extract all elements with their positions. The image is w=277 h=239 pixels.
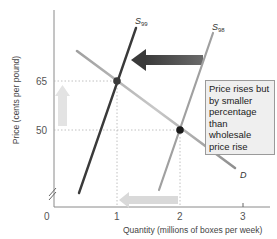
supply-shift-arrow-icon [131,49,203,71]
annotation-box: Price rises but by smaller percentage th… [205,80,275,155]
quantity-decrease-arrow-icon [119,192,178,208]
axis-break-icon [49,188,56,200]
equilibrium-point-new [113,77,121,85]
guide-lines [54,81,180,207]
s99-label: S99 [135,16,148,27]
x-tick-label-2: 2 [177,211,183,222]
supply-curve-99 [79,28,136,193]
y-tick-label-50: 50 [36,125,48,136]
y-tick-label-65: 65 [36,76,48,87]
origin-label: 0 [44,211,50,222]
x-tick-label-1: 1 [114,211,120,222]
price-rise-arrow-icon [55,85,70,126]
s98-label: S98 [212,22,225,33]
x-tick-label-3: 3 [240,211,246,222]
x-axis-title: Quantity (millions of boxes per week) [123,225,263,235]
equilibrium-point-initial [176,126,184,134]
demand-label: D [240,170,247,180]
y-axis-title: Price (cents per pound) [11,56,21,145]
